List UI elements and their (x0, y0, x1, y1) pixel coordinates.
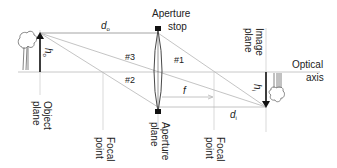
focal-point-left-label: Focal point (94, 137, 115, 161)
aperture-stop-label-2: stop (168, 22, 187, 32)
f-label: f (183, 86, 186, 96)
ray-2-label: #2 (125, 76, 135, 85)
inverted-tree-icon (269, 73, 284, 102)
image-plane-label: Image plane (243, 28, 264, 56)
ray-1-label: #1 (174, 56, 184, 65)
focal-point-right-label: Focal point (204, 137, 225, 161)
aperture-stop-marker (155, 26, 161, 31)
di-label: di (230, 110, 237, 121)
do-label: do (101, 21, 110, 32)
ray-2-focal (40, 33, 158, 107)
object-plane-label: Object plane (31, 101, 52, 130)
aperture-stop-label: Aperture (152, 9, 190, 19)
aperture-plane-label: Aperture plane (149, 122, 170, 160)
optical-axis-label-2: axis (306, 73, 324, 83)
ray-3-label: #3 (125, 53, 135, 62)
hi-label: hi (251, 84, 262, 91)
optical-axis-label: Optical (292, 60, 323, 70)
ho-label: ho (42, 48, 53, 57)
tree-icon (18, 31, 36, 70)
aperture-plane-marker (155, 109, 161, 114)
ray-3-chief (40, 33, 266, 107)
